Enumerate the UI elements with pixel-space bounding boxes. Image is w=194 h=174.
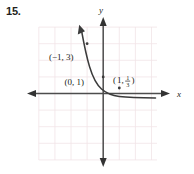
fraction-label-numerator: 1 bbox=[126, 74, 129, 81]
point-label-1-onethird: ( 1, 1 3 ) bbox=[113, 74, 135, 88]
axes bbox=[27, 17, 170, 167]
y-axis-label: y bbox=[98, 5, 103, 15]
fraction-label-x-value: 1, bbox=[117, 75, 124, 85]
point-label-minus1-3: (−1, 3) bbox=[49, 52, 74, 62]
exponential-decay-curve bbox=[78, 25, 156, 98]
point-marker-minus1-3 bbox=[86, 42, 89, 45]
exercise-figure: 15. bbox=[0, 0, 194, 174]
y-axis-arrow-up bbox=[100, 17, 107, 26]
x-axis-arrow-right bbox=[161, 90, 170, 97]
fraction-label-close-paren: ) bbox=[132, 75, 135, 85]
fraction-label-open-paren: ( bbox=[113, 75, 116, 85]
point-label-0-1: (0, 1) bbox=[65, 77, 85, 87]
point-marker-1-onethird bbox=[118, 87, 121, 90]
coordinate-plane: (−1, 3) (0, 1) ( 1, 1 3 ) y x bbox=[0, 0, 194, 174]
y-axis-arrow-down bbox=[100, 158, 107, 167]
x-axis-arrow-left bbox=[27, 90, 36, 97]
fraction-label-denominator: 3 bbox=[126, 81, 129, 88]
x-axis-label: x bbox=[176, 89, 181, 99]
point-marker-0-1 bbox=[102, 76, 105, 79]
